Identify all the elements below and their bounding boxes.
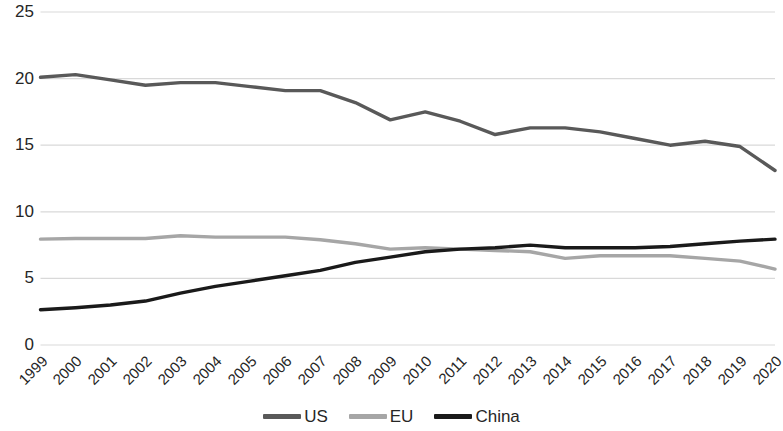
- legend-label: China: [475, 408, 519, 425]
- series-line-us: [41, 75, 776, 171]
- y-axis-tick-label: 15: [0, 136, 34, 153]
- legend-item-us[interactable]: US: [263, 408, 328, 425]
- y-axis-tick-label: 0: [0, 336, 34, 353]
- y-axis-tick-label: 5: [0, 269, 34, 286]
- legend-item-eu[interactable]: EU: [349, 408, 414, 425]
- series-line-group: [41, 75, 776, 310]
- legend-label: EU: [390, 408, 414, 425]
- y-axis-tick-label: 25: [0, 3, 34, 20]
- gridline-group: [41, 12, 776, 345]
- series-line-eu: [41, 236, 776, 269]
- chart-legend: USEUChina: [0, 402, 783, 431]
- legend-label: US: [304, 408, 328, 425]
- legend-swatch-icon: [349, 414, 387, 419]
- line-chart: 2520151050 19992000200120022003200420052…: [0, 0, 783, 431]
- legend-swatch-icon: [434, 414, 472, 419]
- y-axis-tick-label: 10: [0, 203, 34, 220]
- legend-swatch-icon: [263, 414, 301, 419]
- y-axis-tick-label: 20: [0, 70, 34, 87]
- legend-item-china[interactable]: China: [434, 408, 519, 425]
